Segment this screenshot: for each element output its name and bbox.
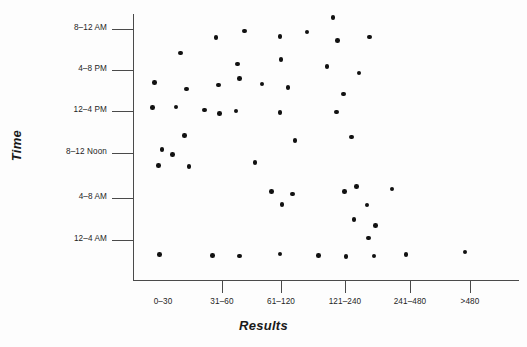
x-axis-tick (222, 281, 223, 293)
x-axis-title: Results (0, 318, 527, 333)
y-axis-tick (112, 153, 133, 154)
data-point (366, 236, 371, 241)
data-point (349, 135, 354, 140)
data-point (352, 217, 357, 222)
y-axis-tick-label-wrap: 4–8 PM (0, 64, 107, 76)
plot-data-area (0, 0, 527, 347)
x-axis-tick (281, 281, 282, 293)
y-axis-tick-label: 4–8 PM (78, 64, 107, 73)
y-axis-tick-label: 8–12 Noon (66, 147, 107, 156)
data-point (178, 51, 183, 56)
y-axis-tick-label-wrap: 12–4 PM (0, 105, 107, 117)
data-point (344, 254, 349, 259)
data-point (152, 80, 157, 85)
data-point (331, 15, 336, 20)
x-axis-tick-label: 121–240 (310, 297, 380, 306)
scatter-plot-figure: Time 8–12 AM4–8 PM12–4 PM8–12 Noon4–8 AM… (0, 0, 527, 347)
x-axis-tick (470, 281, 471, 293)
y-axis-tick (112, 29, 133, 30)
data-point (237, 254, 242, 259)
data-point (404, 252, 409, 257)
y-axis-tick-label: 12–4 PM (74, 105, 107, 114)
data-point (260, 82, 265, 87)
x-axis-title-text: Results (239, 318, 288, 333)
data-point (156, 163, 161, 168)
y-axis-tick (112, 111, 133, 112)
data-point (278, 110, 283, 115)
y-axis-title: Time (0, 110, 34, 180)
x-axis-line (133, 280, 519, 281)
data-point (157, 252, 162, 257)
data-point (210, 253, 215, 258)
data-point (160, 147, 165, 152)
data-point (390, 187, 395, 192)
data-point (335, 38, 340, 43)
data-point (341, 92, 346, 97)
data-point (187, 164, 192, 169)
x-axis-tick-label: >480 (435, 297, 505, 306)
data-point (235, 62, 240, 67)
y-axis-tick-label-wrap: 8–12 Noon (0, 147, 107, 159)
data-point (278, 252, 283, 257)
data-point (174, 105, 179, 110)
data-point (463, 250, 468, 255)
data-point (278, 34, 283, 39)
y-axis-tick (112, 70, 133, 71)
data-point (279, 57, 284, 62)
x-axis-tick (345, 281, 346, 293)
y-axis-tick-label: 4–8 AM (79, 192, 107, 201)
y-axis-tick (112, 198, 133, 199)
data-point (216, 83, 221, 88)
y-axis-tick-label: 8–12 AM (74, 23, 107, 32)
data-point (305, 30, 310, 35)
data-point (269, 189, 274, 194)
data-point (214, 35, 219, 40)
data-point (280, 202, 285, 207)
data-point (357, 71, 362, 76)
data-point (325, 64, 330, 69)
x-axis-tick-label: 61–120 (246, 297, 316, 306)
data-point (372, 254, 377, 259)
data-point (202, 108, 207, 113)
data-point (342, 189, 347, 194)
x-axis-tick (410, 281, 411, 293)
data-point (234, 109, 239, 114)
data-point (354, 184, 359, 189)
data-point (316, 253, 321, 258)
y-axis-tick-label: 12–4 AM (74, 234, 107, 243)
data-point (170, 152, 175, 157)
data-point (184, 87, 189, 92)
y-axis-tick-label-wrap: 12–4 AM (0, 234, 107, 246)
data-point (217, 111, 222, 116)
data-point (373, 223, 378, 228)
y-axis-tick-label-wrap: 8–12 AM (0, 23, 107, 35)
data-point (237, 76, 242, 81)
y-axis-tick-label-wrap: 4–8 AM (0, 192, 107, 204)
data-point (293, 138, 298, 143)
data-point (290, 192, 295, 197)
data-point (365, 203, 370, 208)
data-point (286, 85, 291, 90)
data-point (334, 110, 339, 115)
data-point (367, 35, 372, 40)
data-point (253, 160, 258, 165)
data-point (150, 105, 155, 110)
data-point (242, 29, 247, 34)
y-axis-tick (112, 240, 133, 241)
y-axis-line (133, 14, 134, 281)
data-point (182, 133, 187, 138)
